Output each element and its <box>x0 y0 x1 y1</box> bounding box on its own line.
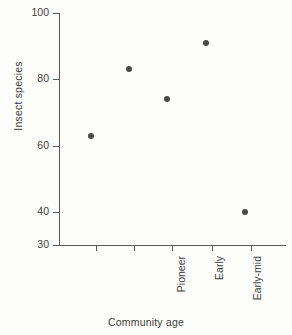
x-tick-mark <box>251 245 252 251</box>
data-point <box>203 40 209 46</box>
x-tick-mark <box>96 245 97 251</box>
x-tick-mark <box>134 245 135 251</box>
y-axis-line <box>59 13 60 246</box>
y-tick-label: 30 <box>5 238 49 250</box>
scatter-plot-figure: Insect species 10080604030 PioneerEarlyE… <box>0 0 292 335</box>
x-tick-mark <box>212 245 213 251</box>
y-tick-label: 100 <box>5 6 49 18</box>
data-point <box>126 66 132 72</box>
y-tick-mark <box>53 79 59 80</box>
x-tick-mark <box>172 245 173 251</box>
y-tick-label: 80 <box>5 72 49 84</box>
y-tick-mark <box>53 245 59 246</box>
y-tick-mark <box>53 146 59 147</box>
x-axis-title: Community age <box>0 316 292 328</box>
y-tick-label: 60 <box>5 139 49 151</box>
y-tick-mark <box>53 13 59 14</box>
y-tick-label: 40 <box>5 205 49 217</box>
data-point <box>164 96 170 102</box>
data-point <box>242 209 248 215</box>
data-point <box>88 133 94 139</box>
y-tick-mark <box>53 212 59 213</box>
